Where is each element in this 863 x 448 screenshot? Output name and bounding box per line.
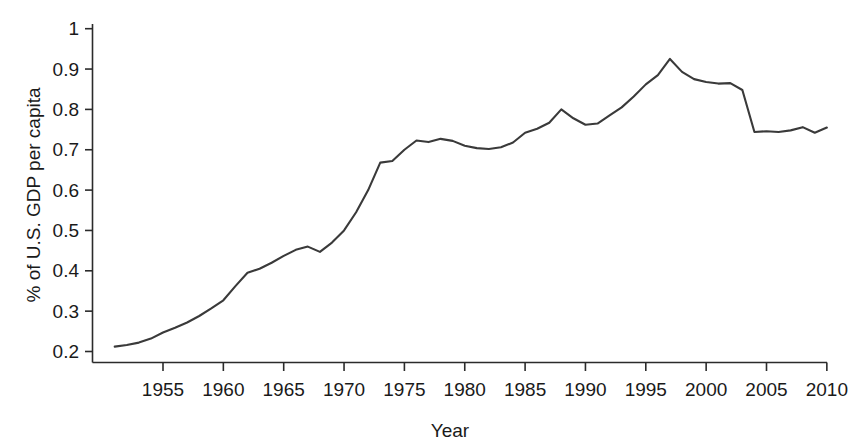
x-axis-ticks: 1955196019651970197519801985199019952000… [142,363,848,401]
x-tick-label: 1960 [202,379,244,400]
y-tick-label: 0.9 [53,59,79,80]
x-tick-label: 1995 [625,379,667,400]
y-tick-label: 0.5 [53,220,79,241]
x-axis-title: Year [431,420,470,441]
x-tick-label: 2000 [685,379,727,400]
x-tick-label: 1975 [383,379,425,400]
y-tick-label: 0.7 [53,139,79,160]
chart-figure: % of U.S. GDP per capita Year 0.20.30.40… [0,0,863,448]
x-tick-label: 1955 [142,379,184,400]
y-axis-ticks: 0.20.30.40.50.60.70.80.91 [53,18,93,362]
line-chart-plot: % of U.S. GDP per capita Year 0.20.30.40… [0,0,863,448]
x-tick-label: 1970 [323,379,365,400]
x-tick-label: 2005 [745,379,787,400]
y-tick-label: 0.8 [53,99,79,120]
y-tick-label: 1 [68,18,79,39]
data-series-line [115,59,827,347]
y-tick-label: 0.4 [53,260,80,281]
y-axis-title: % of U.S. GDP per capita [23,87,44,303]
x-tick-label: 1965 [263,379,305,400]
x-tick-label: 1980 [444,379,486,400]
x-tick-label: 2010 [806,379,848,400]
y-tick-label: 0.6 [53,180,79,201]
y-tick-label: 0.2 [53,341,79,362]
x-tick-label: 1985 [504,379,546,400]
y-tick-label: 0.3 [53,301,79,322]
x-tick-label: 1990 [564,379,606,400]
